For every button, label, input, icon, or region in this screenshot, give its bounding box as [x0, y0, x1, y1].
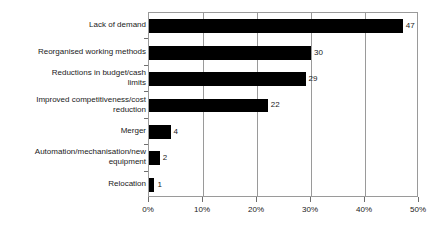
bar	[149, 125, 171, 139]
x-axis-tick	[202, 197, 203, 202]
bar	[149, 99, 268, 113]
y-axis-tick	[144, 118, 148, 119]
bar-value-label: 4	[174, 128, 178, 136]
bar-row: 47	[149, 19, 417, 33]
bar	[149, 72, 306, 86]
x-axis-tick-label: 40%	[356, 205, 372, 215]
bar	[149, 19, 403, 33]
bar-value-label: 22	[271, 101, 280, 109]
bar-value-label: 2	[163, 154, 167, 162]
y-axis-tick	[144, 91, 148, 92]
category-label: Lack of demand	[0, 20, 146, 30]
bar-chart: 47302922421 Lack of demandReorganised wo…	[0, 0, 440, 228]
category-label: Merger	[0, 126, 146, 136]
category-label: Automation/mechanisation/new equipment	[0, 147, 146, 167]
category-label: Relocation	[0, 179, 146, 189]
plot-area: 47302922421	[148, 12, 418, 197]
y-axis-tick	[144, 38, 148, 39]
x-axis-tick-label: 50%	[410, 205, 426, 215]
x-axis-tick	[256, 197, 257, 202]
bar-row: 2	[149, 151, 417, 165]
x-axis-tick	[310, 197, 311, 202]
bar-value-label: 47	[406, 22, 415, 30]
bar	[149, 46, 311, 60]
bar-row: 1	[149, 178, 417, 192]
y-axis-tick	[144, 65, 148, 66]
x-axis-tick	[148, 197, 149, 202]
x-axis-tick-label: 10%	[194, 205, 210, 215]
x-axis-tick-label: 30%	[302, 205, 318, 215]
category-label: Reductions in budget/cash limits	[0, 68, 146, 88]
bar-row: 4	[149, 125, 417, 139]
bar	[149, 151, 160, 165]
x-axis-tick	[364, 197, 365, 202]
bar	[149, 178, 154, 192]
category-label: Improved competitiveness/cost reduction	[0, 95, 146, 115]
bar-row: 22	[149, 99, 417, 113]
bar-row: 29	[149, 72, 417, 86]
bar-value-label: 1	[157, 181, 161, 189]
category-label: Reorganised working methods	[0, 47, 146, 57]
y-axis-tick	[144, 144, 148, 145]
y-axis-tick	[144, 171, 148, 172]
bar-value-label: 30	[314, 49, 323, 57]
bar-row: 30	[149, 46, 417, 60]
x-axis-tick-label: 0%	[142, 205, 154, 215]
x-axis-tick-label: 20%	[248, 205, 264, 215]
bar-value-label: 29	[309, 75, 318, 83]
x-axis-tick	[418, 197, 419, 202]
